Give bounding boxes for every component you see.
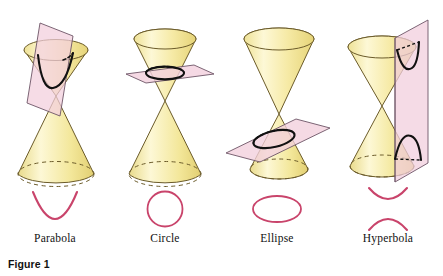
figure-caption: Figure 1 [8, 258, 50, 270]
conic-label-hyperbola: Hyperbola [333, 232, 443, 245]
panel-circle: Circle [110, 0, 220, 250]
hyperbola-cone-diagram [333, 8, 443, 188]
conic-label-ellipse: Ellipse [222, 232, 332, 245]
panel-ellipse: Ellipse [222, 0, 332, 250]
circle-cone-diagram [110, 8, 220, 188]
cutting-plane-hyperbola [395, 20, 428, 182]
conic-label-circle: Circle [110, 232, 220, 245]
panel-parabola: Parabola [0, 0, 110, 250]
ellipse-curve [222, 186, 332, 232]
lower-nappe [129, 101, 201, 187]
panel-hyperbola: Hyperbola [333, 0, 443, 250]
conic-label-parabola: Parabola [0, 232, 110, 245]
ellipse-cone-diagram [222, 8, 332, 188]
conic-sections-figure: Parabola Circle [0, 0, 443, 276]
circle-curve [110, 186, 220, 232]
upper-rim [244, 28, 314, 50]
parabola-curve [0, 186, 110, 232]
upper-nappe [244, 28, 314, 114]
cutting-plane-parabola [27, 23, 73, 116]
upper-nappe [134, 29, 196, 101]
parabola-cone-diagram [0, 8, 110, 188]
hyperbola-curve [333, 186, 443, 232]
upper-rim [134, 29, 196, 49]
